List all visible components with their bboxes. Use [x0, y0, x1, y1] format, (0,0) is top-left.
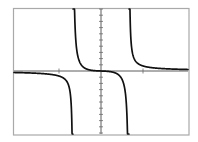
function-plot — [0, 0, 198, 142]
left-branch-curve — [14, 73, 73, 134]
right-branch-curve — [129, 9, 188, 69]
